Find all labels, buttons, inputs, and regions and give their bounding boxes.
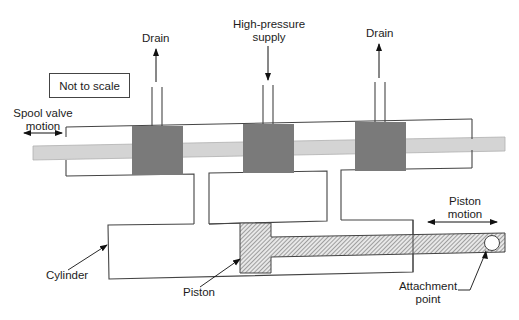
attachment-point [485,236,500,251]
drain-right-label: Drain [366,27,393,40]
spool-motion-line1: Spool valve [13,107,73,120]
piston-motion-line1: Piston [440,195,490,208]
spool-motion-line2: motion [13,120,73,133]
land-3 [355,122,406,171]
cylinder-label: Cylinder [46,269,88,282]
attachment-line1: Attachment [398,280,458,293]
land-1 [132,126,183,175]
supply-label-line1: High-pressure [233,18,305,31]
piston-motion-label: Piston motion [440,195,490,221]
ports [152,82,385,126]
attachment-line2: point [398,293,458,306]
piston-leader [200,259,240,287]
attachment-leader [458,254,485,290]
piston-motion-line2: motion [440,208,490,221]
piston-label: Piston [183,286,215,299]
attachment-label: Attachment point [398,280,458,306]
supply-label-line2: supply [233,31,305,44]
cylinder-leader [68,245,107,270]
piston [240,223,505,273]
drain-left-label: Drain [142,32,169,45]
supply-label: High-pressure supply [233,18,305,44]
spool-motion-label: Spool valve motion [13,107,73,133]
not-to-scale-note: Not to scale [49,73,130,98]
land-2 [243,124,294,173]
